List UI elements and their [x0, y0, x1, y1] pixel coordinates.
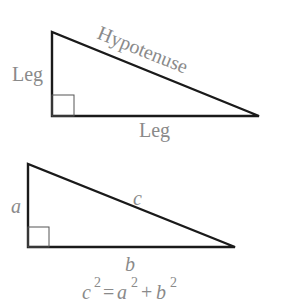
- side-c-label: c: [133, 187, 142, 209]
- formula-plus: +: [141, 281, 152, 302]
- vertical-leg-label: Leg: [12, 63, 43, 86]
- pythagorean-formula: c 2 = a 2 + b 2: [82, 275, 177, 302]
- side-a-label: a: [11, 195, 21, 217]
- top-triangle: Leg Leg Hypotenuse: [12, 21, 259, 142]
- right-angle-marker: [28, 227, 49, 247]
- right-angle-marker: [52, 95, 74, 116]
- formula-b-exponent: 2: [170, 275, 177, 290]
- pythagorean-diagram: Leg Leg Hypotenuse a c b c 2 = a 2 + b 2: [0, 0, 282, 302]
- formula-c: c: [82, 281, 91, 302]
- side-b-label: b: [125, 253, 135, 275]
- formula-c-exponent: 2: [94, 275, 101, 290]
- formula-a: a: [117, 281, 127, 302]
- horizontal-leg-label: Leg: [139, 119, 170, 142]
- bottom-triangle: a c b: [11, 164, 235, 275]
- triangle-outline: [28, 164, 235, 247]
- formula-equals: =: [103, 281, 114, 302]
- formula-a-exponent: 2: [131, 275, 138, 290]
- formula-b: b: [156, 281, 166, 302]
